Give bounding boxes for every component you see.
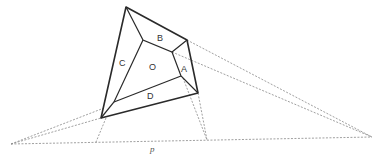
label-a: A: [181, 64, 187, 74]
construction-lines: [11, 40, 372, 144]
label-c: C: [119, 58, 126, 68]
label-d: D: [147, 91, 154, 101]
label-b: B: [157, 33, 163, 43]
label-p: p: [149, 144, 155, 154]
perspective-diagram: B C O A D p: [0, 0, 376, 160]
label-o: O: [149, 62, 156, 72]
